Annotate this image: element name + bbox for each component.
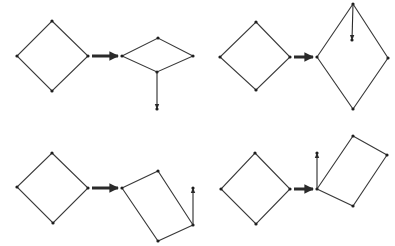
vertex-dot: [254, 222, 257, 225]
vertex-dot: [15, 185, 18, 188]
vertex-dot: [50, 151, 53, 154]
panel-bottom-right: [219, 134, 388, 225]
vertex-dot: [351, 134, 354, 137]
vertex-dot: [288, 55, 291, 58]
vertex-dot: [156, 169, 159, 172]
vertex-dot: [254, 20, 257, 23]
source-square: [220, 22, 290, 90]
vertex-dot: [86, 54, 89, 57]
vertex-dot: [219, 187, 222, 190]
vertex-dot: [86, 186, 89, 189]
source-square: [17, 153, 88, 223]
vertex-dot: [50, 89, 53, 92]
vertex-dot: [218, 55, 221, 58]
vertex-dot: [51, 221, 54, 224]
vector-tip-dot: [350, 38, 353, 41]
vertex-dot: [288, 187, 291, 190]
panels-group: [15, 2, 389, 242]
deformed-shape: [122, 38, 193, 72]
vector-tip-dot: [155, 107, 158, 110]
vertex-dot: [15, 54, 18, 57]
vertex-dot: [254, 88, 257, 91]
vertex-dot: [351, 204, 354, 207]
vertex-dot: [156, 36, 159, 39]
vertex-dot: [50, 19, 53, 22]
vertex-dot: [315, 55, 318, 58]
source-square: [221, 153, 290, 224]
vector-tip-dot: [315, 151, 318, 154]
panel-top-right: [218, 2, 389, 110]
source-square: [17, 21, 88, 91]
vertex-dot: [156, 239, 159, 242]
vertex-dot: [386, 56, 389, 59]
vertex-dot: [120, 54, 123, 57]
vertex-dot: [253, 151, 256, 154]
vertex-dot: [120, 186, 123, 189]
vector-tip-dot: [191, 186, 194, 189]
deformed-shape: [122, 171, 193, 241]
deformed-shape: [317, 136, 387, 206]
diagram-canvas: [0, 0, 395, 246]
panel-top-left: [15, 19, 194, 110]
vertex-dot: [351, 107, 354, 110]
vertex-dot: [385, 153, 388, 156]
panel-bottom-left: [15, 151, 194, 242]
vertex-dot: [191, 54, 194, 57]
displacement-arrow-icon: [352, 4, 353, 40]
